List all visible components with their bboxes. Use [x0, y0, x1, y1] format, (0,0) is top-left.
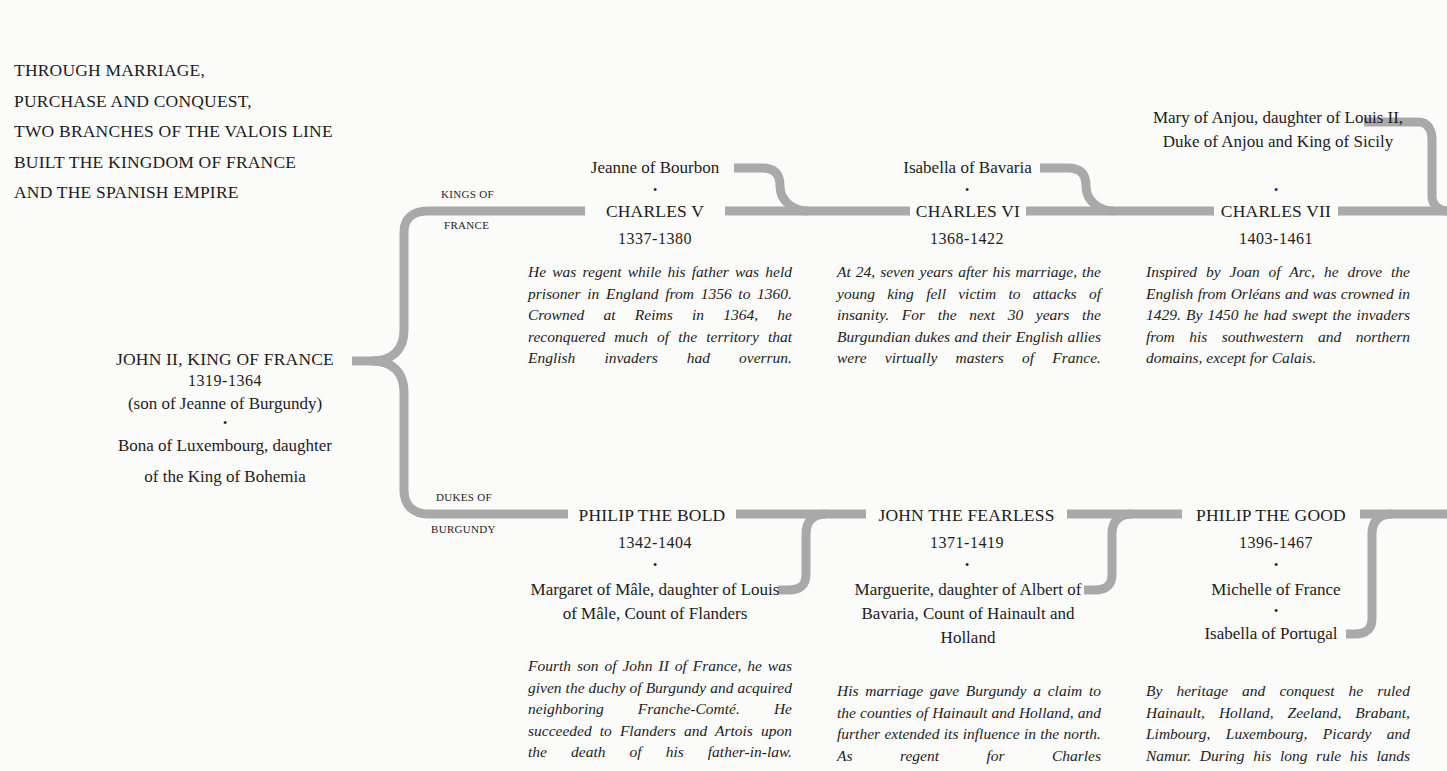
- separator-dot: •: [90, 416, 360, 430]
- person-name-charles-vii: CHARLES VII: [1214, 200, 1338, 222]
- person-years-charles-vii: 1403-1461: [1216, 228, 1336, 250]
- person-name: JOHN II, KING OF FRANCE: [90, 348, 360, 370]
- person-years-charles-v: 1337-1380: [595, 228, 715, 250]
- person-name-charles-vi: CHARLES VI: [910, 200, 1026, 222]
- spouse-line: of the King of Bohemia: [90, 461, 360, 492]
- intro-line: TWO BRANCHES OF THE VALOIS LINE: [14, 116, 394, 147]
- person-name-philip-the-good: PHILIP THE GOOD: [1182, 504, 1360, 526]
- separator-dot: •: [1266, 604, 1286, 618]
- branch-label-dukes-line2: BURGUNDY: [431, 523, 496, 535]
- person-years-philip-the-bold: 1342-1404: [595, 532, 715, 554]
- separator-dot: •: [645, 558, 665, 572]
- spouse-connector-philip-good: [1346, 514, 1392, 634]
- spouse-john-the-fearless: Marguerite, daughter of Albert of Bavari…: [833, 578, 1103, 650]
- separator-dot: •: [957, 558, 977, 572]
- branch-label-kings-line1: KINGS OF: [441, 188, 494, 200]
- bio-charles-vii: Inspired by Joan of Arc, he drove the En…: [1146, 261, 1410, 369]
- separator-dot: •: [957, 183, 977, 197]
- spouse-charles-vii: Mary of Anjou, daughter of Louis II, Duk…: [1140, 106, 1416, 154]
- root-person-john-ii: JOHN II, KING OF FRANCE 1319-1364 (son o…: [90, 348, 360, 492]
- bio-john-the-fearless: His marriage gave Burgundy a claim to th…: [837, 680, 1101, 766]
- spouse-line: Bona of Luxembourg, daughter: [90, 430, 360, 461]
- person-name-philip-the-bold: PHILIP THE BOLD: [568, 504, 736, 526]
- person-years: 1319-1364: [90, 370, 360, 392]
- person-name-charles-v: CHARLES V: [585, 200, 725, 222]
- separator-dot: •: [1266, 558, 1286, 572]
- person-note: (son of Jeanne of Burgundy): [90, 392, 360, 416]
- intro-heading: THROUGH MARRIAGE, PURCHASE AND CONQUEST,…: [14, 55, 394, 208]
- person-years-charles-vi: 1368-1422: [907, 228, 1027, 250]
- bio-charles-vi: At 24, seven years after his marriage, t…: [837, 261, 1101, 369]
- spouse-charles-v: Jeanne of Bourbon: [560, 156, 750, 180]
- intro-line: AND THE SPANISH EMPIRE: [14, 177, 394, 208]
- intro-line: BUILT THE KINGDOM OF FRANCE: [14, 147, 394, 178]
- spouse-philip-the-good-1: Michelle of France: [1176, 578, 1376, 602]
- bio-charles-v: He was regent while his father was held …: [528, 261, 792, 369]
- intro-line: THROUGH MARRIAGE,: [14, 55, 394, 86]
- separator-dot: •: [1266, 183, 1286, 197]
- person-years-philip-the-good: 1396-1467: [1216, 532, 1336, 554]
- spouse-charles-vi: Isabella of Bavaria: [880, 156, 1055, 180]
- person-years-john-the-fearless: 1371-1419: [907, 532, 1027, 554]
- intro-line: PURCHASE AND CONQUEST,: [14, 86, 394, 117]
- spouse-philip-the-bold: Margaret of Mâle, daughter of Louis of M…: [527, 578, 783, 626]
- spouse-connector-philip-bold: [778, 514, 826, 590]
- person-name-john-the-fearless: JOHN THE FEARLESS: [866, 504, 1067, 526]
- branch-label-kings-line2: FRANCE: [444, 219, 489, 231]
- separator-dot: •: [645, 183, 665, 197]
- branch-label-dukes-line1: DUKES OF: [436, 491, 492, 503]
- bio-philip-the-good: By heritage and conquest he ruled Hainau…: [1146, 680, 1410, 766]
- spouse-philip-the-good-2: Isabella of Portugal: [1196, 622, 1346, 646]
- bio-philip-the-bold: Fourth son of John II of France, he was …: [528, 655, 792, 763]
